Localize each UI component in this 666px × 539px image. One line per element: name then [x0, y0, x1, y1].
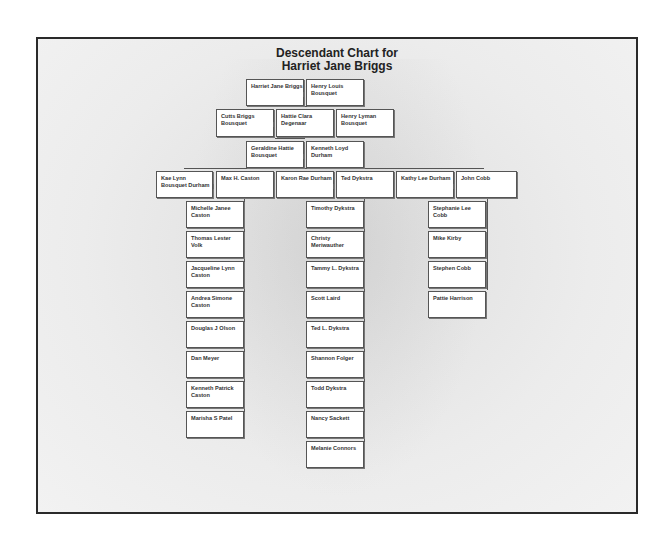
connector [184, 168, 484, 169]
person-box[interactable]: John Cobb [456, 171, 517, 198]
person-box[interactable]: Melanie Connors [306, 441, 364, 468]
person-name: Hattie Clara Degenaar [281, 113, 312, 126]
person-name: Stephanie Lee Cobb [433, 205, 471, 218]
person-box[interactable]: Hattie Clara Degenaar [276, 109, 334, 137]
person-name: Todd Dykstra [311, 385, 346, 391]
person-box[interactable]: Karon Rae Durham [276, 171, 334, 198]
person-name: Michelle Janee Caston [191, 205, 231, 218]
person-box[interactable]: Kenneth Patrick Caston [186, 381, 244, 408]
person-box[interactable]: Cutts Briggs Bousquet [216, 109, 274, 137]
person-name: Stephen Cobb [433, 265, 471, 271]
person-name: Kathy Lee Durham [401, 175, 450, 181]
person-box[interactable]: Michelle Janee Caston [186, 201, 244, 228]
person-name: Christy Meriwauther [311, 235, 344, 248]
person-box[interactable]: Nancy Sackett [306, 411, 364, 438]
person-box[interactable]: Shannon Folger [306, 351, 364, 378]
person-name: Henry Louis Bousquet [311, 83, 343, 96]
person-box[interactable]: Andrea Simone Caston [186, 291, 244, 318]
person-name: John Cobb [461, 175, 490, 181]
person-name: Tammy L. Dykstra [311, 265, 359, 271]
person-box[interactable]: Ted L. Dykstra [306, 321, 364, 348]
person-name: Mike Kirby [433, 235, 461, 241]
person-name: Ted Dykstra [341, 175, 373, 181]
person-name: Shannon Folger [311, 355, 354, 361]
person-box[interactable]: Kae Lynn Bousquet Durham [156, 171, 213, 198]
person-name: Harriet Jane Briggs [251, 83, 303, 89]
person-box[interactable]: Stephanie Lee Cobb [428, 201, 486, 228]
person-box[interactable]: Henry Louis Bousquet [306, 79, 364, 106]
person-name: Marisha S Patel [191, 415, 232, 421]
connector [275, 106, 365, 107]
person-name: Ted L. Dykstra [311, 325, 349, 331]
person-box[interactable]: Timothy Dykstra [306, 201, 364, 228]
person-box[interactable]: Dan Meyer [186, 351, 244, 378]
person-box[interactable]: Pattie Harrison [428, 291, 486, 318]
person-box[interactable]: Geraldine Hattie Bousquet [246, 141, 304, 168]
person-box[interactable]: Stephen Cobb [428, 261, 486, 288]
person-name: Nancy Sackett [311, 415, 349, 421]
connector [244, 198, 245, 432]
person-name: Kenneth Patrick Caston [191, 385, 234, 398]
person-box[interactable]: Harriet Jane Briggs [246, 79, 304, 106]
person-name: Geraldine Hattie Bousquet [251, 145, 294, 158]
connector [487, 198, 488, 290]
person-box[interactable]: Marisha S Patel [186, 411, 244, 438]
person-name: Thomas Lester Volk [191, 235, 231, 248]
person-name: Karon Rae Durham [281, 175, 332, 181]
person-box[interactable]: Max H. Caston [216, 171, 274, 198]
title-line-2: Harriet Jane Briggs [38, 60, 636, 73]
person-box[interactable]: Christy Meriwauther [306, 231, 364, 258]
person-box[interactable]: Kenneth Loyd Durham [306, 141, 364, 168]
chart-title: Descendant Chart for Harriet Jane Briggs [38, 47, 636, 73]
person-box[interactable]: Thomas Lester Volk [186, 231, 244, 258]
person-name: Max H. Caston [221, 175, 260, 181]
person-box[interactable]: Henry Lyman Bousquet [336, 109, 394, 137]
person-name: Scott Laird [311, 295, 340, 301]
person-name: Pattie Harrison [433, 295, 473, 301]
person-name: Henry Lyman Bousquet [341, 113, 376, 126]
person-box[interactable]: Scott Laird [306, 291, 364, 318]
person-name: Kae Lynn Bousquet Durham [161, 175, 209, 188]
person-box[interactable]: Jacqueline Lynn Caston [186, 261, 244, 288]
person-name: Jacqueline Lynn Caston [191, 265, 235, 278]
connector [364, 198, 365, 460]
person-box[interactable]: Todd Dykstra [306, 381, 364, 408]
person-box[interactable]: Ted Dykstra [336, 171, 394, 198]
person-box[interactable]: Mike Kirby [428, 231, 486, 258]
person-box[interactable]: Kathy Lee Durham [396, 171, 454, 198]
person-name: Dan Meyer [191, 355, 219, 361]
person-name: Andrea Simone Caston [191, 295, 232, 308]
person-name: Cutts Briggs Bousquet [221, 113, 255, 126]
person-name: Melanie Connors [311, 445, 356, 451]
person-name: Douglas J Olson [191, 325, 235, 331]
person-name: Timothy Dykstra [311, 205, 355, 211]
person-name: Kenneth Loyd Durham [311, 145, 348, 158]
connector [275, 138, 305, 139]
person-box[interactable]: Tammy L. Dykstra [306, 261, 364, 288]
person-box[interactable]: Douglas J Olson [186, 321, 244, 348]
